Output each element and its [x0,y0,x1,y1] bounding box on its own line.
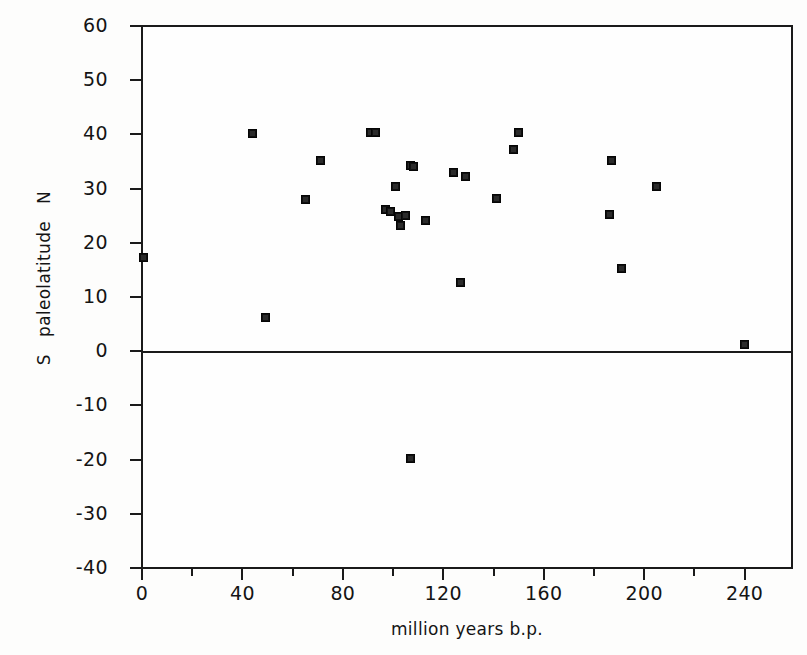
data-point-marker [605,210,614,219]
y-axis-ticklabel: -40 [18,558,108,577]
data-point-marker [617,264,626,273]
data-point-marker [371,128,380,137]
y-axis-ticklabel: 10 [18,287,108,306]
x-axis-tick [744,569,746,580]
x-axis-minor-tick [392,569,394,576]
data-point-marker [514,128,523,137]
x-axis-tick [643,569,645,580]
y-axis-tick [130,404,142,406]
y-axis-ticklabel: 60 [18,16,108,35]
x-axis-ticklabel: 160 [509,584,579,603]
x-axis-minor-tick [292,569,294,576]
y-axis-tick [130,188,142,190]
y-axis-ticklabel: 0 [18,341,108,360]
y-axis-tick [130,79,142,81]
data-point-marker [421,216,430,225]
x-axis-minor-tick [493,569,495,576]
y-axis-ticklabel: -10 [18,395,108,414]
x-axis-tick [241,569,243,580]
x-axis-ticklabel: 40 [207,584,277,603]
y-axis-tick [130,296,142,298]
data-point-marker [607,156,616,165]
data-point-marker [396,221,405,230]
data-point-marker [652,182,661,191]
data-point-marker [401,211,410,220]
y-axis-tick [130,350,142,352]
y-axis-tick [130,133,142,135]
scatter-figure: -40-30-20-100102030405060 04080120160200… [0,0,807,655]
x-axis-tick [342,569,344,580]
y-axis-ticklabel: 40 [18,124,108,143]
x-axis-ticklabel: 200 [609,584,679,603]
x-axis-tick [543,569,545,580]
data-point-marker [406,454,415,463]
y-axis-title: S paleolatitude N [34,148,54,408]
x-axis-minor-tick [191,569,193,576]
data-point-marker [509,145,518,154]
data-point-marker [740,340,749,349]
data-point-marker [492,194,501,203]
data-point-marker [449,168,458,177]
y-axis-ticklabel: 30 [18,179,108,198]
x-axis-tick [141,569,143,580]
y-axis-tick [130,25,142,27]
plot-area-frame [141,25,793,569]
y-axis-tick [130,513,142,515]
data-point-marker [261,313,270,322]
x-axis-tick [442,569,444,580]
y-axis-ticklabel: -30 [18,504,108,523]
data-point-marker [456,278,465,287]
data-point-marker [139,253,148,262]
x-axis-minor-tick [693,569,695,576]
x-axis-ticklabel: 120 [408,584,478,603]
y-axis-ticklabel: 20 [18,233,108,252]
data-point-marker [409,162,418,171]
data-point-marker [301,195,310,204]
data-point-marker [461,172,470,181]
y-axis-ticklabel: 50 [18,70,108,89]
data-point-marker [391,182,400,191]
x-axis-ticklabel: 240 [710,584,780,603]
y-axis-ticklabel: -20 [18,450,108,469]
y-axis-tick [130,459,142,461]
x-axis-minor-tick [593,569,595,576]
data-point-marker [316,156,325,165]
zero-latitude-line [141,351,793,353]
x-axis-ticklabel: 80 [308,584,378,603]
y-axis-tick [130,242,142,244]
x-axis-title: million years b.p. [141,619,793,639]
x-axis-ticklabel: 0 [107,584,177,603]
data-point-marker [248,129,257,138]
